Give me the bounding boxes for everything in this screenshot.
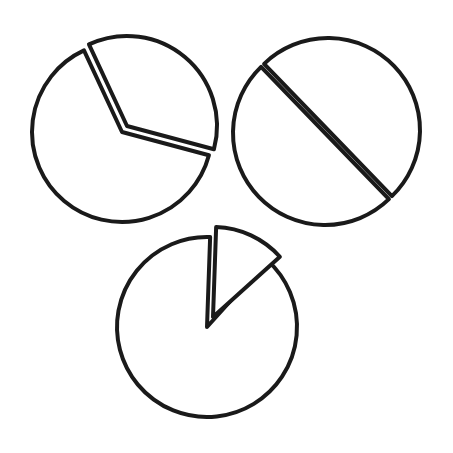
pie-bottom [117,227,297,417]
pie-top-left [32,36,217,222]
diagram-canvas [0,0,453,453]
pie-top-right [233,38,420,225]
